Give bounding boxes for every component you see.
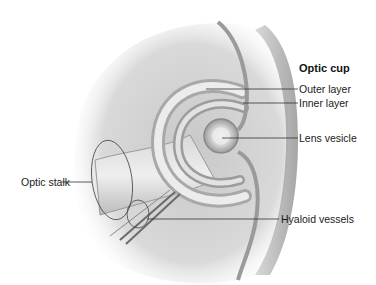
- label-outer-layer: Outer layer: [299, 84, 351, 95]
- optic-cup-diagram: Optic cup Outer layer Inner layer Lens v…: [0, 0, 376, 285]
- label-hyaloid-vessels: Hyaloid vessels: [281, 214, 354, 225]
- label-optic-stalk: Optic stalk: [21, 177, 70, 188]
- title-optic-cup: Optic cup: [299, 63, 350, 74]
- label-lens-vesicle: Lens vesicle: [299, 133, 357, 144]
- lens-vesicle-shape: [204, 119, 238, 153]
- label-inner-layer: Inner layer: [299, 98, 349, 109]
